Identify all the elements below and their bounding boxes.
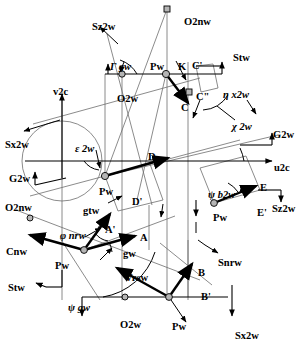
diagram-svg — [0, 0, 302, 347]
guide-oblique-snrw — [160, 243, 212, 285]
label-o2w-top: O2w — [117, 94, 138, 105]
leader-snrw-b — [198, 240, 205, 245]
label-pw-lower-l: Pw — [55, 261, 69, 272]
leader-pw-bottom — [169, 297, 186, 322]
tick-stw-left-arrow — [36, 283, 46, 287]
label-g2w-left: G2w — [9, 174, 30, 185]
label-g2w-right: G2w — [273, 130, 294, 141]
label-o2nw-left: O2nw — [5, 203, 32, 214]
tick-g2w-left-h — [35, 178, 66, 185]
leader-eta-x2w-c — [247, 100, 256, 114]
label-pw-bottom: Pw — [172, 322, 186, 333]
leader-eta-x2w-a — [217, 106, 235, 120]
node-o2nw-left — [27, 215, 33, 221]
leader-dprime — [161, 204, 163, 217]
label-gtw: gtw — [83, 206, 99, 217]
label-eps-2w: ε 2w — [75, 144, 94, 155]
label-chi-2w: χ 2w — [232, 122, 252, 133]
label-psi-b2w: ψ b2w — [208, 190, 235, 201]
label-cprime-top: C' — [192, 61, 203, 72]
guide-oblique-sz2w — [107, 34, 152, 205]
node-o2w-bottom — [122, 294, 128, 300]
label-c-point: C — [181, 103, 189, 114]
label-eta-x2w: η x2w — [223, 90, 249, 101]
label-sx2w-bottom: Sx2w — [235, 331, 259, 342]
label-e-point: E — [260, 183, 267, 194]
label-stw-left: Stw — [8, 283, 25, 294]
label-aprime: A' — [105, 225, 116, 236]
label-eprime: E' — [257, 208, 267, 219]
label-cnw: Cnw — [6, 247, 27, 258]
label-b-point: B — [198, 268, 205, 279]
node-c2prime — [186, 89, 192, 95]
node-pw-bottom — [166, 294, 173, 301]
node-pw-right — [211, 200, 218, 207]
node-o2nw-top — [164, 6, 170, 12]
label-k-point: K — [178, 62, 186, 73]
label-snrw: Snrw — [218, 258, 242, 269]
label-o2w-bottom: O2w — [120, 320, 141, 331]
label-o2nw-top: O2nw — [184, 17, 211, 28]
arc-eps-2w — [84, 161, 99, 170]
guide-oblique-cnw-b — [16, 210, 200, 280]
leader-eps-2w — [96, 150, 100, 168]
label-psi-gw: ψ gw — [68, 303, 90, 314]
diagram-canvas: Sz2wO2nwStwΓ gwPwKC'v2cO2wC"Cη x2wχ 2wSx… — [0, 0, 302, 347]
label-a-point: A — [140, 233, 148, 244]
label-stw-top: Stw — [233, 53, 250, 64]
label-sz2w-right: Sz2w — [272, 204, 295, 215]
label-dprime: D' — [132, 197, 143, 208]
leader-snrw — [205, 245, 218, 253]
label-sx2w-left: Sx2w — [5, 140, 29, 151]
label-pw-right: Pw — [213, 213, 227, 224]
label-phi-nrw: φ nrw — [60, 231, 86, 242]
label-vrsw: Vrsw — [125, 273, 148, 284]
node-pw-lower — [81, 247, 88, 254]
label-c2prime: C" — [196, 92, 209, 103]
guide-oblique-pw-dprime — [137, 74, 166, 200]
label-v2c: v2c — [53, 87, 68, 98]
node-pw-center — [101, 172, 108, 179]
vector-B — [169, 264, 192, 297]
label-pw-center: Pw — [99, 187, 113, 198]
arc-chi-2w — [240, 148, 244, 161]
label-pw-top: Pw — [150, 62, 164, 73]
label-gamma-gw: Γ gw — [110, 62, 131, 73]
label-gw-label: gw — [123, 249, 136, 260]
label-bprime: B' — [201, 292, 211, 303]
label-d-point: D — [148, 152, 156, 163]
label-sz2w-top: Sz2w — [92, 22, 115, 33]
leader-eta-x2w-b — [193, 100, 200, 118]
label-u2c: u2c — [274, 163, 290, 174]
leader-gw-angle — [100, 248, 112, 260]
